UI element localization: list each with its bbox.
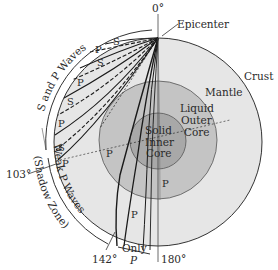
- wave-label-p: P: [77, 77, 84, 88]
- angle-0: 0°: [152, 2, 164, 14]
- wave-label-s: S: [113, 36, 120, 47]
- wave-label-s: S: [58, 142, 65, 153]
- crust-label: Crust: [244, 70, 274, 82]
- inner-core-label-3: Core: [146, 147, 172, 159]
- angle-103: 103°: [6, 168, 31, 180]
- epicenter-label: Epicenter: [177, 18, 230, 30]
- outer-core-label-3: Core: [184, 126, 210, 138]
- inner-core-label-1: Solid: [145, 124, 172, 136]
- wave-label-p: P: [62, 158, 69, 169]
- outer-core-label-1: Liquid: [180, 102, 214, 114]
- only-p-label: P: [129, 254, 138, 266]
- earth-seismic-diagram: 0° 103° 142° 180° Epicenter Crust Mantle…: [0, 0, 278, 270]
- outer-core-label-2: Outer: [181, 114, 213, 126]
- wave-label-p: P: [95, 44, 102, 55]
- wave-label-s: S: [97, 57, 104, 68]
- wave-label-p: P: [131, 209, 138, 220]
- epicenter-pointer: [162, 24, 178, 36]
- wave-label-s: S: [67, 96, 74, 107]
- angle-142: 142°: [92, 253, 117, 265]
- wave-label-p: P: [162, 178, 169, 189]
- angle-180: 180°: [161, 253, 186, 265]
- only-label: Only: [122, 242, 147, 254]
- mantle-label: Mantle: [205, 86, 243, 98]
- wave-label-p: P: [58, 118, 65, 129]
- wave-label-p: P: [106, 148, 113, 159]
